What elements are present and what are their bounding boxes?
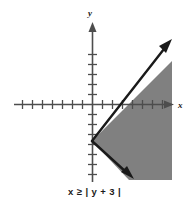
y-axis-label: y	[87, 8, 93, 18]
x-axis-label: x	[177, 100, 183, 110]
y-axis	[89, 22, 97, 182]
graph-figure: x y x ≥ | y + 3 |	[0, 0, 189, 209]
figure-caption: x ≥ | y + 3 |	[0, 186, 189, 197]
coordinate-plane: x y	[0, 0, 189, 209]
shaded-region	[92, 61, 172, 180]
